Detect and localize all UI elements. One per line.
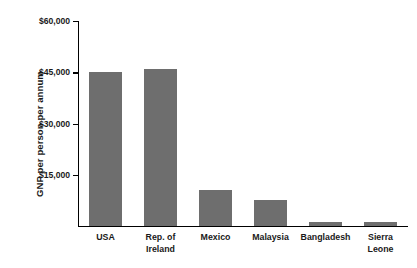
y-tick-mark bbox=[73, 175, 79, 176]
y-tick-mark bbox=[73, 124, 79, 125]
y-tick-label: $45,000 bbox=[39, 67, 70, 77]
x-axis-label-line: Bangladesh bbox=[298, 232, 353, 244]
y-tick-mark bbox=[73, 72, 79, 73]
y-tick-label: $30,000 bbox=[39, 119, 70, 129]
bar-slot bbox=[89, 21, 122, 226]
bar-series bbox=[78, 21, 408, 226]
x-axis-label: Malaysia bbox=[243, 232, 298, 244]
x-axis-label: Rep. ofIreland bbox=[133, 232, 188, 255]
y-axis-title: GNP per person per annum bbox=[26, 0, 52, 268]
bar-slot bbox=[199, 21, 232, 226]
x-axis-labels: USARep. ofIrelandMexicoMalaysiaBanglades… bbox=[78, 232, 408, 266]
x-axis-label-line: Sierra bbox=[353, 232, 408, 244]
bar bbox=[199, 190, 232, 226]
y-tick-mark bbox=[73, 21, 79, 22]
y-tick-label: $15,000 bbox=[39, 170, 70, 180]
x-axis-label: USA bbox=[78, 232, 133, 244]
x-axis-label: Bangladesh bbox=[298, 232, 353, 244]
x-axis-line bbox=[78, 226, 408, 227]
x-axis-label: SierraLeone bbox=[353, 232, 408, 255]
plot-area: $15,000$30,000$45,000$60,000 bbox=[78, 21, 408, 226]
bar-slot bbox=[254, 21, 287, 226]
bar-slot bbox=[309, 21, 342, 226]
x-axis-label-line: Leone bbox=[353, 244, 408, 256]
x-axis-label-line: Malaysia bbox=[243, 232, 298, 244]
x-axis-label-line: USA bbox=[78, 232, 133, 244]
x-axis-label-line: Ireland bbox=[133, 244, 188, 256]
x-axis-label: Mexico bbox=[188, 232, 243, 244]
gnp-bar-chart: GNP per person per annum $15,000$30,000$… bbox=[0, 0, 417, 268]
y-tick-label: $60,000 bbox=[39, 16, 70, 26]
bar-slot bbox=[144, 21, 177, 226]
bar-slot bbox=[364, 21, 397, 226]
x-axis-label-line: Rep. of bbox=[133, 232, 188, 244]
bar bbox=[254, 200, 287, 226]
bar bbox=[89, 72, 122, 226]
x-axis-label-line: Mexico bbox=[188, 232, 243, 244]
bar bbox=[364, 222, 397, 226]
bar bbox=[144, 69, 177, 226]
bar bbox=[309, 222, 342, 226]
